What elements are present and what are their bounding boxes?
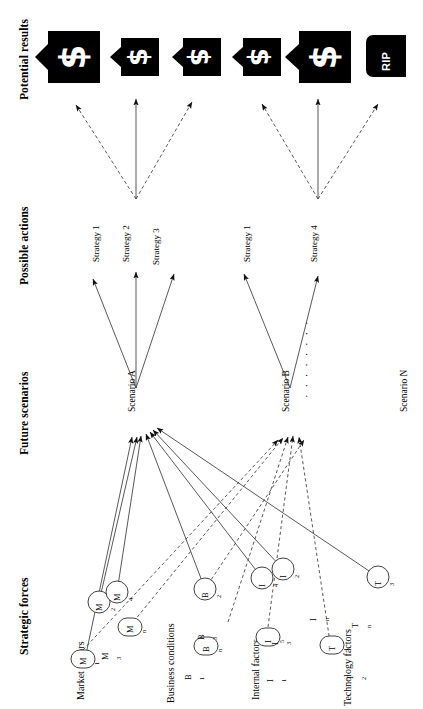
force-label-M1: M1	[78, 657, 100, 665]
force-label-Tn: Tn	[350, 623, 372, 628]
force-label-I4: I4	[257, 584, 279, 587]
force-text: M4	[112, 593, 134, 601]
force-label-M2: M2	[94, 603, 116, 611]
force-label-Bn: Bn	[201, 646, 223, 652]
force-text: Tn	[350, 623, 372, 628]
connector-layer	[0, 0, 423, 709]
diagram-canvas: Potential results Possible actions Futur…	[0, 0, 423, 709]
force-text: I2	[278, 575, 300, 578]
force-text: I1	[265, 679, 287, 682]
force-text: M1	[78, 657, 100, 665]
force-label-I5: I5	[263, 640, 285, 643]
force-text: T3	[373, 581, 395, 586]
force-text: In	[308, 618, 330, 621]
edges-to-scenario-b	[83, 436, 330, 650]
force-text: Bn	[201, 646, 223, 652]
edges-strategies-results	[76, 99, 378, 199]
force-label-M4: M4	[112, 593, 134, 601]
force-label-T2: T2	[345, 675, 367, 680]
force-text: T2	[345, 675, 367, 680]
force-text: Mn	[125, 625, 147, 633]
force-label-M3: M3	[100, 652, 122, 660]
force-text: B1	[183, 674, 205, 680]
force-label-Mn: Mn	[125, 625, 147, 633]
force-label-B3: B3	[196, 634, 218, 640]
force-label-I2: I2	[278, 575, 300, 578]
force-text: M2	[94, 603, 116, 611]
force-label-B2: B2	[200, 592, 222, 598]
force-text: I4	[257, 584, 279, 587]
force-text: M3	[100, 652, 122, 660]
force-label-I1: I1	[265, 679, 287, 682]
force-text: T1	[327, 646, 349, 651]
edges-scenario-b-strategies	[244, 274, 318, 388]
force-label-T1: T1	[327, 646, 349, 651]
force-label-B1: B1	[183, 674, 205, 680]
force-text: B2	[200, 592, 222, 598]
force-text: I5	[263, 640, 285, 643]
force-text: B3	[196, 634, 218, 640]
edges-scenario-a-strategies	[93, 272, 174, 388]
force-label-In: In	[308, 618, 330, 621]
force-label-T3: T3	[373, 581, 395, 586]
